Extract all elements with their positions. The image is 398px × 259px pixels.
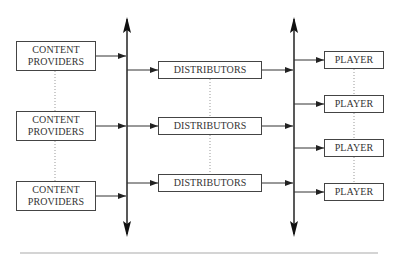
distributor-label: DISTRIBUTORS [174, 177, 247, 189]
left-bus-arrow [123, 17, 131, 237]
distributor-box: DISTRIBUTORS [158, 117, 262, 135]
cp-label-line2: PROVIDERS [28, 196, 84, 208]
right-bus-arrow [290, 17, 298, 237]
player-label: PLAYER [335, 186, 374, 198]
cp-label-line2: PROVIDERS [28, 126, 84, 138]
distributor-box: DISTRIBUTORS [158, 61, 262, 79]
bus-to-player-arrows [294, 60, 324, 192]
cp-label-line1: CONTENT [28, 184, 84, 196]
distributor-to-bus-arrows [262, 70, 293, 183]
cp-label-line2: PROVIDERS [28, 56, 84, 68]
content-provider-box: CONTENTPROVIDERS [16, 41, 96, 71]
player-box: PLAYER [324, 95, 384, 113]
cp-to-bus-arrows [96, 56, 126, 196]
content-provider-box: CONTENTPROVIDERS [16, 111, 96, 141]
player-box: PLAYER [324, 139, 384, 157]
bus-to-distributor-arrows [127, 70, 158, 183]
distributor-label: DISTRIBUTORS [174, 120, 247, 132]
distributor-box: DISTRIBUTORS [158, 174, 262, 192]
player-box: PLAYER [324, 183, 384, 201]
cp-label-line1: CONTENT [28, 114, 84, 126]
cp-label-line1: CONTENT [28, 44, 84, 56]
content-provider-box: CONTENTPROVIDERS [16, 181, 96, 211]
distributor-label: DISTRIBUTORS [174, 64, 247, 76]
player-label: PLAYER [335, 142, 374, 154]
player-label: PLAYER [335, 54, 374, 66]
player-box: PLAYER [324, 51, 384, 69]
player-label: PLAYER [335, 98, 374, 110]
